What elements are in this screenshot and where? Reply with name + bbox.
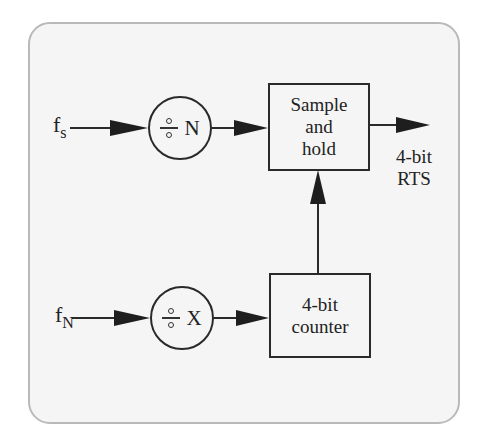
arrow-fs-to-divider-n bbox=[70, 120, 148, 136]
arrow-divider-n-to-sample-hold bbox=[211, 120, 268, 136]
sample-and-hold-block: Sample and hold bbox=[268, 83, 370, 171]
divide-icon bbox=[160, 118, 178, 138]
arrow-divider-x-to-counter bbox=[213, 310, 269, 326]
output-label: 4-bit RTS bbox=[384, 146, 444, 190]
divide-icon bbox=[162, 308, 180, 328]
input-fn-label: fN bbox=[55, 302, 74, 332]
arrow-sample-hold-to-output bbox=[370, 117, 430, 133]
input-fs-label: fs bbox=[53, 112, 67, 142]
arrow-fn-to-divider-x bbox=[72, 310, 150, 326]
divide-by-x-block: X bbox=[150, 286, 214, 350]
four-bit-counter-block: 4-bit counter bbox=[269, 273, 371, 358]
connection-arrows bbox=[0, 0, 493, 445]
divide-by-n-block: N bbox=[148, 96, 212, 160]
arrow-counter-to-sample-hold bbox=[310, 170, 326, 273]
